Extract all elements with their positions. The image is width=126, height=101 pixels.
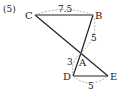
point-label-a: A <box>78 57 87 68</box>
measure-ad: 3 <box>67 57 73 67</box>
measure-cb: 7.5 <box>58 4 73 14</box>
point-label-c: C <box>25 10 33 21</box>
point-label-e: E <box>110 71 117 82</box>
measure-de: 5 <box>88 81 94 91</box>
point-label-b: B <box>95 10 102 21</box>
geometry-diagram: (5) C B A D E 7.5 5 3 5 <box>0 0 126 101</box>
measure-ba: 5 <box>91 33 97 43</box>
point-label-d: D <box>63 71 71 82</box>
problem-number: (5) <box>3 4 16 14</box>
